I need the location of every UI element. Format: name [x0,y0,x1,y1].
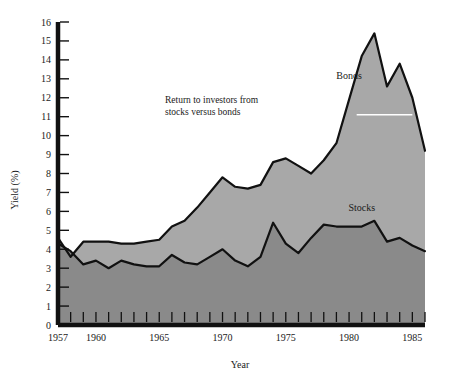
x-tick-label: 1960 [86,332,106,343]
x-tick-label: 1970 [213,332,233,343]
y-tick-label: 3 [46,263,51,274]
x-tick-label: 1975 [276,332,296,343]
stocks-versus-bonds-area-chart: 012345678910111213141516 195719601965197… [0,0,460,377]
y-tick-label: 14 [41,54,51,65]
y-tick-label: 11 [41,111,51,122]
y-tick-label: 2 [46,282,51,293]
series-label-stocks: Stocks [348,202,375,213]
y-tick-label: 8 [46,168,51,179]
x-tick-label: 1985 [402,332,422,343]
x-axis-title: Year [231,359,250,370]
y-axis-title: Yield (%) [9,170,21,209]
y-tick-label: 10 [41,130,51,141]
y-tick-label: 12 [41,92,51,103]
y-tick-label: 6 [46,206,51,217]
y-tick-label: 9 [46,149,51,160]
y-tick-label: 1 [46,301,51,312]
y-tick-label: 13 [41,73,51,84]
y-tick-label: 16 [41,17,51,28]
series-label-bonds: Bonds [336,70,362,81]
y-tick-label: 7 [46,187,51,198]
x-tick-label: 1957 [48,332,68,343]
chart-container: 012345678910111213141516 195719601965197… [0,0,460,377]
x-tick-label: 1965 [149,332,169,343]
chart-title-line-1: Return to investors from [165,95,259,105]
y-tick-label: 15 [41,35,51,46]
chart-title-line-2: stocks versus bonds [165,107,241,117]
y-tick-label: 5 [46,225,51,236]
x-tick-label: 1980 [339,332,359,343]
y-tick-label: 0 [46,320,51,331]
y-tick-label: 4 [46,244,51,255]
